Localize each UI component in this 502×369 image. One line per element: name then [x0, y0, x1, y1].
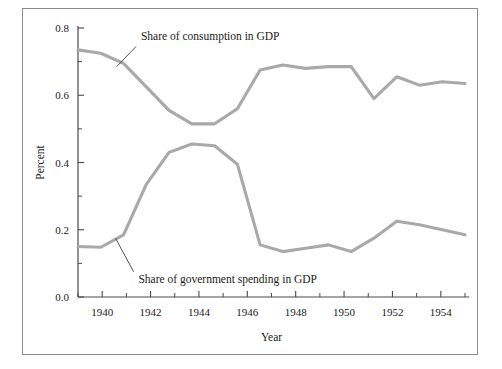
series-label-consumption: Share of consumption in GDP — [141, 30, 280, 43]
y-tick-label-0.6: 0.6 — [55, 89, 69, 101]
series-line-consumption — [78, 50, 465, 124]
x-tick-label-1944: 1944 — [188, 306, 211, 318]
series-line-government-spending — [78, 144, 465, 252]
y-tick-label-0.2: 0.2 — [55, 224, 69, 236]
series-label-government-spending: Share of government spending in GDP — [138, 273, 317, 286]
y-tick-label-0.0: 0.0 — [55, 291, 69, 303]
annotation-leader-consumption — [117, 46, 136, 66]
x-tick-label-1940: 1940 — [91, 306, 114, 318]
x-tick-label-1946: 1946 — [236, 306, 259, 318]
figure-container: 0.00.20.40.60.81940194219441946194819501… — [0, 0, 502, 369]
x-tick-label-1942: 1942 — [140, 306, 162, 318]
y-axis-title: Percent — [34, 144, 46, 179]
x-tick-label-1954: 1954 — [430, 306, 453, 318]
annotation-leader-government-spending — [115, 238, 133, 272]
x-tick-label-1950: 1950 — [333, 306, 356, 318]
line-chart: 0.00.20.40.60.81940194219441946194819501… — [0, 0, 502, 369]
y-tick-label-0.4: 0.4 — [55, 157, 69, 169]
y-tick-label-0.8: 0.8 — [55, 22, 69, 34]
x-axis-title: Year — [261, 331, 282, 343]
x-tick-label-1948: 1948 — [285, 306, 308, 318]
x-tick-label-1952: 1952 — [381, 306, 403, 318]
